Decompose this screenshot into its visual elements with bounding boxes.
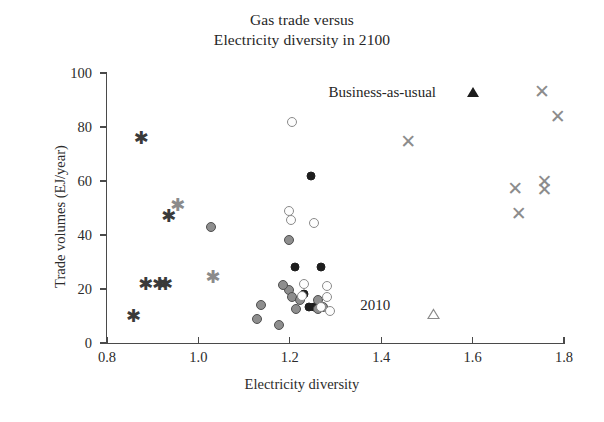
y-axis-tick-label: 20 (52, 281, 92, 298)
scatter-chart-figure: Gas trade versus Electricity diversity i… (0, 0, 604, 422)
data-point-filled-circle (316, 263, 325, 272)
chart-title-line-2: Electricity diversity in 2100 (0, 30, 604, 50)
x-axis-tick-label: 1.2 (268, 349, 312, 366)
data-point-filled-circle (307, 171, 316, 180)
data-point-shaded-circle (274, 320, 284, 330)
data-point-open-circle (322, 292, 332, 302)
x-axis-tick-label: 1.4 (359, 349, 403, 366)
business-as-usual-marker (467, 87, 479, 97)
data-point-open-circle (309, 218, 319, 228)
x-axis-tick (198, 337, 199, 343)
chart-title-line-1: Gas trade versus (0, 10, 604, 30)
x-axis-tick (472, 337, 473, 343)
data-point-open-circle (297, 291, 307, 301)
x-axis-tick-label: 0.8 (85, 349, 129, 366)
x-axis-tick (289, 337, 290, 343)
data-point-shaded-circle (252, 314, 262, 324)
data-point-open-circle (299, 279, 309, 289)
data-point-open-circle (287, 117, 297, 127)
y-axis-tick (100, 234, 106, 235)
data-point-open-circle (322, 281, 332, 291)
y-axis-tick-label: 100 (52, 65, 92, 82)
x-axis-tick-label: 1.6 (451, 349, 495, 366)
annotation-label-2010: 2010 (360, 297, 390, 314)
y-axis-tick-label: 60 (52, 173, 92, 190)
x-axis-tick-label: 1.8 (542, 349, 586, 366)
y-axis-line (106, 72, 107, 344)
x-axis-title: Electricity diversity (0, 376, 604, 393)
x-axis-line (106, 343, 565, 344)
data-point-shaded-circle (291, 304, 301, 314)
data-point-open-circle (286, 215, 296, 225)
data-point-shaded-circle (284, 235, 294, 245)
data-point-filled-circle (291, 263, 300, 272)
y-axis-tick-label: 40 (52, 227, 92, 244)
y-axis-tick-label: 80 (52, 119, 92, 136)
x-axis-tick (106, 337, 107, 343)
data-point-shaded-circle (278, 280, 288, 290)
chart-title: Gas trade versus Electricity diversity i… (0, 10, 604, 50)
annotation-label-business-as-usual: Business-as-usual (329, 83, 437, 100)
data-point-open-circle (325, 306, 335, 316)
data-point-shaded-circle (206, 222, 216, 232)
x-axis-tick (381, 337, 382, 343)
data-point-open-circle (316, 302, 326, 312)
y-axis-tick (100, 288, 106, 289)
y-axis-tick (100, 72, 106, 73)
y-axis-tick (100, 180, 106, 181)
y-axis-tick (100, 126, 106, 127)
y-axis-tick (100, 342, 106, 343)
x-axis-tick-label: 1.0 (176, 349, 220, 366)
data-point-shaded-circle (256, 300, 266, 310)
x-axis-tick (563, 337, 564, 343)
data-point-open-circle (284, 206, 294, 216)
